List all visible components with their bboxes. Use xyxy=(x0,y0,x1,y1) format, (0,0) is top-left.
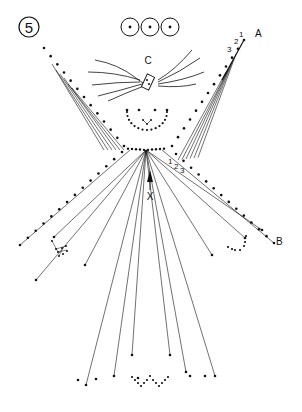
left-sleeve-pin xyxy=(89,179,92,182)
fan-end-pin xyxy=(261,229,264,232)
fan-thread xyxy=(146,150,245,238)
right-sleeve-pin xyxy=(250,221,253,224)
left-arm-pin xyxy=(43,47,46,50)
left-sleeve-pin xyxy=(34,229,37,232)
right-arm-thread xyxy=(186,66,230,159)
hem-zigzag-pin xyxy=(137,382,139,384)
mouth-pin xyxy=(126,111,128,113)
label-c: C xyxy=(144,55,151,66)
left-arm-pin xyxy=(123,145,126,148)
left-arm-pin xyxy=(76,88,79,91)
hair-strand-3 xyxy=(92,82,140,85)
right-sleeve-pin xyxy=(227,201,230,204)
fan-end-pin xyxy=(211,254,214,257)
right-arm-pin xyxy=(201,101,204,104)
left-hand-pin xyxy=(57,251,59,253)
mouth-pin xyxy=(158,125,160,127)
hem-zigzag-pin xyxy=(164,379,166,381)
right-arm-pin xyxy=(243,39,246,42)
right-hand-pin xyxy=(245,235,247,237)
neck-pin xyxy=(139,148,141,150)
hem-pin xyxy=(189,375,192,378)
left-arm-pin xyxy=(89,104,92,107)
left-arm-pin xyxy=(63,71,66,74)
left-arm-pin xyxy=(109,128,112,131)
right-arm-pin xyxy=(219,74,222,77)
right-arm-thread xyxy=(182,70,228,160)
mouth-pin xyxy=(155,127,157,129)
right-sleeve-pin xyxy=(220,194,223,197)
right-arm-pin xyxy=(231,56,234,59)
hem-zigzag-pin xyxy=(134,379,136,381)
left-hand-thread xyxy=(58,250,67,252)
right-sleeve-pin xyxy=(175,153,178,156)
right-arm-pin xyxy=(171,145,174,148)
bundle-clip xyxy=(141,74,154,90)
label-b-seq-3: 3 xyxy=(180,166,185,175)
left-arm-thread xyxy=(60,74,112,150)
left-sleeve-pin xyxy=(50,215,53,218)
left-arm-pin xyxy=(96,112,99,115)
neck-pin xyxy=(131,148,133,150)
right-arm-pin xyxy=(189,118,192,121)
neck-pin xyxy=(163,147,165,149)
left-arm-thread xyxy=(56,70,108,150)
ornament-center-dot xyxy=(129,26,132,29)
eye-pin xyxy=(138,109,141,112)
right-arm-pin xyxy=(225,65,228,68)
right-arm-thread xyxy=(198,54,236,158)
hem-pins xyxy=(77,375,207,387)
fan-thread xyxy=(132,150,146,355)
fan-end-pin xyxy=(185,371,188,374)
ornament-center-dot xyxy=(169,26,172,29)
hem-zigzag-pin xyxy=(131,376,133,378)
fan-end-pin xyxy=(35,279,38,282)
fan-end-pin xyxy=(113,375,116,378)
mouth-pin xyxy=(141,128,143,130)
mouth-pin xyxy=(150,128,152,130)
right-arm-pin xyxy=(237,48,240,51)
right-arm-thread xyxy=(194,58,234,158)
hem-zigzag-pin xyxy=(149,375,151,377)
left-hand-thread xyxy=(56,246,66,249)
right-sleeve-pin xyxy=(273,242,276,245)
right-sleeve-pin xyxy=(197,173,200,176)
fan-thread xyxy=(146,150,212,255)
mouth-pin xyxy=(130,122,132,124)
right-sleeve-pin xyxy=(182,160,185,163)
left-hand-pin xyxy=(65,245,67,247)
ornament-center-dot xyxy=(149,26,152,29)
right-sleeve-pin xyxy=(258,228,261,231)
right-sleeve-thread xyxy=(162,150,274,243)
hair-strand-2 xyxy=(88,72,140,80)
mouth-pin xyxy=(128,119,130,121)
right-hand-pin xyxy=(234,249,236,251)
eye-pin xyxy=(154,109,157,112)
left-sleeve-pin xyxy=(121,151,124,154)
left-sleeve-pin xyxy=(105,165,108,168)
left-hand-pin xyxy=(55,248,57,250)
hem-zigzag-pin xyxy=(161,382,163,384)
right-hand-pin xyxy=(231,248,233,250)
hem-zigzag-pin xyxy=(152,379,154,381)
left-hand-thread xyxy=(52,241,58,252)
right-arm-pin xyxy=(195,109,198,112)
arrow-x xyxy=(147,170,153,190)
fan-end-pin xyxy=(53,236,56,239)
right-arm-pin xyxy=(183,127,186,130)
fan-thread xyxy=(146,150,262,230)
label-a: A xyxy=(255,28,262,39)
diagram-canvas: 5 C A 1 2 3 B 1 2 3 X xyxy=(0,0,302,412)
hem-zigzag-pin xyxy=(143,382,145,384)
label-a-seq-1: 1 xyxy=(239,30,244,39)
label-b-seq-2: 2 xyxy=(174,162,179,171)
left-sleeve-pin xyxy=(42,222,45,225)
fan-end-pin xyxy=(214,375,217,378)
right-hand-pin xyxy=(227,246,229,248)
fan-end-pin xyxy=(84,264,87,267)
fan-end-pin xyxy=(131,354,134,357)
hair-strand-9 xyxy=(158,84,196,87)
arrow-x-head xyxy=(147,170,153,182)
left-arm-thread xyxy=(68,84,120,150)
nose-line xyxy=(147,120,151,124)
